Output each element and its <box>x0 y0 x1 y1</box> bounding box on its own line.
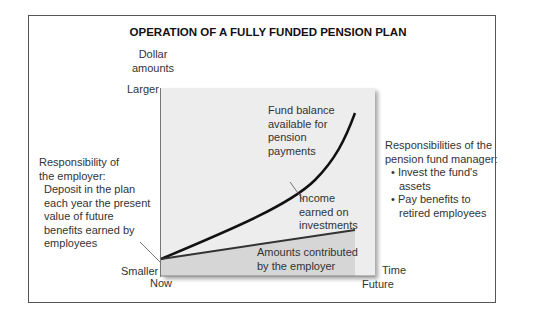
fund-balance-label: Fund balanceavailable forpensionpayments <box>268 104 335 158</box>
employer-contribution-label: Amounts contributedby the employer <box>257 246 358 273</box>
bullet-invest: • Invest the fund's assets <box>385 166 498 193</box>
bullet-pay: • Pay benefits to retired employees <box>385 193 498 220</box>
income-label: Incomeearned oninvestments <box>299 192 358 233</box>
manager-responsibility: Responsibilities of thepension fund mana… <box>385 139 498 220</box>
employer-responsibility: Responsibility ofthe employer: Deposit i… <box>39 156 150 251</box>
